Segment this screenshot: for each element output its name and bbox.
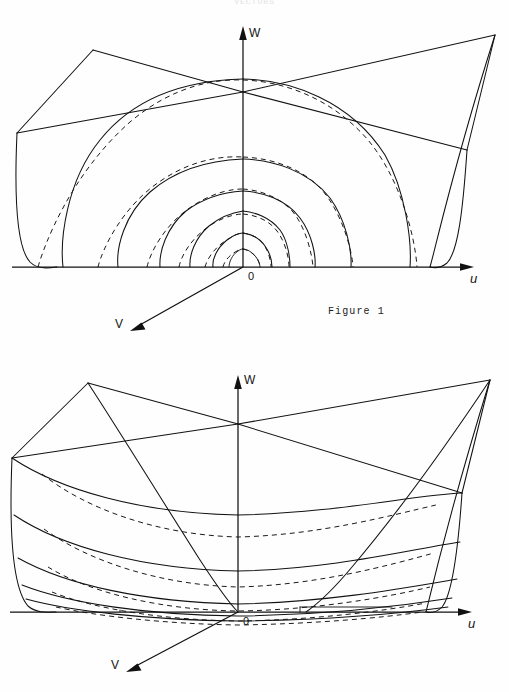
figure-1-v-axis-label: V (115, 317, 123, 331)
figure-1-origin-label: 0 (248, 270, 254, 282)
figure-2-axes (10, 375, 472, 672)
figure-2-w-arrowhead (234, 375, 242, 389)
figure-1-v-axis (138, 267, 243, 326)
figure-1: W u V 0 Figure 1 (0, 0, 509, 345)
figure-1-w-axis-label: W (249, 26, 260, 40)
figure-2-boundary-outline (11, 380, 490, 612)
figure-1-caption: Figure 1 (328, 306, 385, 317)
scanned-page: VECTORS (0, 0, 509, 692)
figure-1-v-arrowhead (130, 323, 146, 331)
figure-2-solid-valleys (12, 458, 462, 621)
figure-1-boundary-outline (16, 35, 495, 268)
figure-2-drawing (0, 345, 509, 692)
figure-1-u-arrowhead (460, 263, 474, 271)
figure-1-dashed-arches (38, 80, 417, 267)
figure-1-solid-arches (62, 79, 410, 267)
figure-1-w-arrowhead (239, 26, 247, 40)
figure-2: W u V 0 Figure 2 (0, 345, 509, 692)
figure-2-u-arrowhead (458, 608, 472, 616)
figure-2-v-axis-label: V (111, 658, 119, 672)
figure-1-u-axis-label: u (470, 271, 477, 286)
figure-2-w-axis-label: W (244, 373, 255, 387)
figure-1-drawing (0, 0, 509, 345)
figure-2-origin-label: 0 (243, 615, 249, 627)
figure-2-u-axis-label: u (468, 616, 475, 631)
